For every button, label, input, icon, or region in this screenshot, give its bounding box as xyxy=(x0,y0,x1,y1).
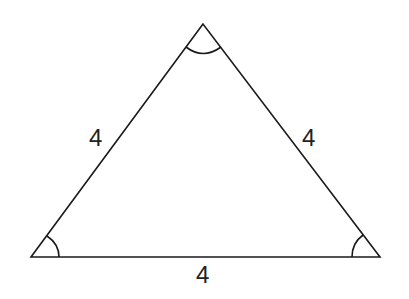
triangle-shape xyxy=(31,24,380,257)
triangle-diagram: 4 4 4 xyxy=(0,0,409,299)
bottom-left-angle-arc xyxy=(47,236,59,257)
bottom-right-angle-arc xyxy=(352,235,363,257)
triangle-svg: 4 4 4 xyxy=(0,0,409,299)
bottom-side-label: 4 xyxy=(196,261,209,288)
right-side-label: 4 xyxy=(302,124,315,151)
left-side-label: 4 xyxy=(89,124,102,151)
apex-angle-arc xyxy=(186,47,221,54)
